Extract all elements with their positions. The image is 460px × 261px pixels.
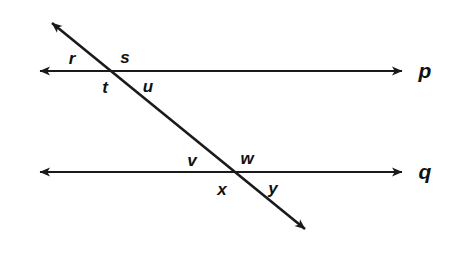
- geometry-figure: r s t u v w x y p q: [0, 0, 460, 261]
- angle-label-x: x: [217, 181, 226, 198]
- angle-label-t: t: [102, 79, 108, 96]
- line-label-p: p: [419, 60, 432, 81]
- transversal-line: [52, 23, 305, 229]
- angle-label-v: v: [187, 152, 196, 169]
- line-label-q: q: [419, 161, 432, 182]
- transversal-group: [52, 23, 305, 229]
- angle-label-w: w: [240, 150, 253, 167]
- figure-canvas: [0, 0, 460, 261]
- angle-label-y: y: [268, 180, 277, 197]
- angle-label-r: r: [69, 50, 76, 67]
- angle-label-s: s: [120, 49, 129, 66]
- angle-label-u: u: [143, 78, 153, 95]
